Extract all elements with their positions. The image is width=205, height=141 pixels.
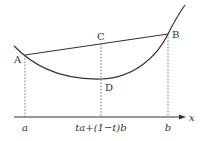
x-axis-label: x <box>189 112 195 123</box>
tick-label-b: b <box>165 122 171 133</box>
point-c-label: C <box>97 31 105 42</box>
x-axis-arrow-icon <box>179 115 186 120</box>
tick-label-mid: ta+(1−t)b <box>75 122 126 133</box>
convex-curve <box>14 5 185 79</box>
tick-label-a: a <box>22 122 28 133</box>
point-d-label: D <box>105 82 113 93</box>
point-a-label: A <box>13 54 22 65</box>
convexity-diagram: x A B C D a ta+(1−t)b b <box>0 0 205 141</box>
point-b-label: B <box>172 29 179 40</box>
